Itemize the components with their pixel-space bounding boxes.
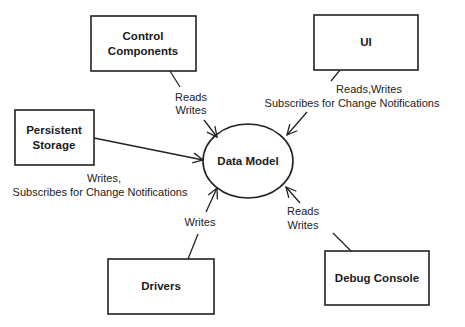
- data-model-label: Data Model: [217, 155, 278, 167]
- edge-line-segment: [188, 234, 198, 259]
- edge-debug-to-data-model: Reads Writes: [286, 187, 351, 251]
- data-model-diagram: Data Model Control Components UI Persist…: [0, 0, 465, 327]
- arrow-icon: [204, 120, 217, 137]
- control-components-label-line2: Components: [108, 45, 178, 57]
- edge-label-writes: Writes: [288, 219, 319, 231]
- debug-console-node[interactable]: Debug Console: [325, 251, 429, 305]
- edge-label-subscribes: Subscribes for Change Notifications: [13, 186, 188, 198]
- edge-drivers-to-data-model: Writes: [185, 188, 217, 259]
- arrow-icon: [286, 187, 300, 203]
- edge-line-segment: [170, 71, 180, 87]
- edge-label-writes: Writes: [176, 104, 207, 116]
- arrow-icon: [287, 112, 307, 135]
- control-components-box: [91, 16, 196, 71]
- edge-label-reads: Reads: [175, 91, 207, 103]
- edge-label-reads-writes: Reads,Writes: [336, 83, 402, 95]
- arrow-icon: [94, 138, 203, 160]
- edge-control-to-data-model: Reads Writes: [170, 71, 217, 137]
- edge-ui-to-data-model: Reads,Writes Subscribes for Change Notif…: [265, 70, 440, 135]
- persistent-storage-box: [15, 110, 94, 165]
- edge-line-segment: [333, 233, 351, 251]
- edge-line-segment: [331, 70, 340, 81]
- arrow-icon: [206, 188, 217, 212]
- edge-label-subscribes: Subscribes for Change Notifications: [265, 97, 440, 109]
- control-components-node[interactable]: Control Components: [91, 16, 196, 71]
- edge-label-reads: Reads: [287, 205, 319, 217]
- ui-label: UI: [360, 36, 372, 48]
- ui-node[interactable]: UI: [314, 15, 418, 70]
- edge-label-writes: Writes: [185, 216, 216, 228]
- persistent-storage-label-line2: Storage: [33, 139, 76, 151]
- control-components-label-line1: Control: [123, 30, 164, 42]
- persistent-storage-node[interactable]: Persistent Storage: [15, 110, 94, 165]
- edge-label-writes: Writes,: [87, 172, 121, 184]
- drivers-label: Drivers: [141, 280, 181, 292]
- data-model-node[interactable]: Data Model: [203, 124, 293, 198]
- drivers-node[interactable]: Drivers: [108, 259, 214, 314]
- persistent-storage-label-line1: Persistent: [26, 124, 82, 136]
- debug-console-label: Debug Console: [335, 272, 419, 284]
